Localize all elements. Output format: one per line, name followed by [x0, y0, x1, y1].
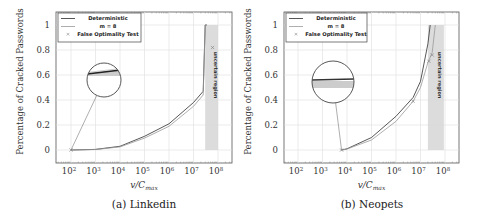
y-axis-label: Percentage of Cracked Passwords	[243, 8, 253, 154]
x-tick-label: 106	[387, 166, 402, 177]
x-tick-label: 106	[160, 166, 175, 177]
x-tick-label: 107	[411, 166, 426, 177]
x-axis-label: v/Cmax	[130, 180, 158, 191]
x-tick-label: 108	[436, 166, 451, 177]
x-tick-label: 107	[184, 166, 199, 177]
chart-neopets: uncertain regionDeterministicm = 8False …	[243, 8, 459, 210]
y-tick-label: 0.6	[264, 70, 278, 80]
legend: Deterministicm = 8False Optimality Test	[286, 13, 367, 42]
subfigure-caption: (b) Neopets	[341, 198, 404, 210]
y-axis-label: Percentage of Cracked Passwords	[15, 8, 25, 154]
x-tick-label: 103	[86, 166, 101, 177]
legend: Deterministicm = 8False Optimality Test	[58, 13, 141, 42]
y-tick-label: 1	[45, 20, 50, 30]
subfigure-caption: (a) Linkedin	[112, 198, 177, 210]
x-axis-label: v/Cmax	[358, 180, 386, 191]
x-tick-label: 104	[111, 166, 126, 177]
x-tick-label: 105	[362, 166, 377, 177]
legend-label: False Optimality Test	[77, 31, 139, 38]
y-tick-label: 0	[45, 145, 50, 155]
legend-label: Deterministic	[316, 15, 355, 21]
y-tick-label: 0.6	[36, 70, 50, 80]
x-tick-label: 103	[313, 166, 328, 177]
x-tick-label: 102	[62, 166, 76, 177]
uncertain-region-label: uncertain region	[212, 52, 219, 99]
y-tick-label: 0	[273, 145, 278, 155]
x-tick-label: 102	[289, 166, 303, 177]
chart-linkedin: uncertain regionDeterministicm = 8False …	[15, 8, 232, 210]
y-tick-label: 0.4	[36, 95, 50, 105]
y-tick-label: 0.8	[264, 45, 278, 55]
y-tick-label: 0.8	[36, 45, 50, 55]
legend-label: Deterministic	[88, 15, 127, 21]
legend-label: m = 8	[100, 23, 117, 29]
y-tick-label: 0.2	[36, 120, 50, 130]
y-tick-label: 1	[273, 20, 278, 30]
legend-label: m = 8	[328, 23, 345, 29]
x-tick-label: 105	[135, 166, 150, 177]
uncertain-region-label: uncertain region	[436, 52, 443, 99]
y-tick-label: 0.2	[264, 120, 278, 130]
x-tick-label: 108	[209, 166, 224, 177]
y-tick-label: 0.4	[264, 95, 278, 105]
legend-label: False Optimality Test	[305, 31, 367, 38]
x-tick-label: 104	[338, 166, 353, 177]
figure: uncertain regionDeterministicm = 8False …	[0, 0, 479, 223]
